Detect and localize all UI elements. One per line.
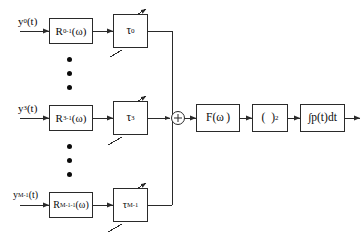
delay-block-channel-3[interactable]: τ3 bbox=[113, 101, 148, 135]
input-label-channel-m-1: yM-1(t) bbox=[13, 188, 38, 202]
channel-ellipsis-lower bbox=[66, 144, 72, 177]
square-law-block[interactable]: ( )2 bbox=[252, 104, 288, 132]
input-label-channel-0: y0(t) bbox=[18, 14, 37, 28]
integrator-block[interactable]: ∫p(t)dt bbox=[300, 104, 345, 132]
delay-block-channel-m-1[interactable]: τM-1 bbox=[113, 188, 148, 222]
whitening-filter-block-channel-m-1[interactable]: RM-1-1(ω) bbox=[49, 192, 93, 218]
input-label-channel-3: y3(t) bbox=[18, 101, 37, 115]
variable-delay-tick-0-bottom bbox=[110, 50, 122, 57]
variable-delay-tick-3-bottom bbox=[108, 137, 122, 145]
whitening-filter-block-channel-3[interactable]: R3-1(ω) bbox=[49, 105, 93, 131]
summing-junction[interactable] bbox=[171, 111, 185, 125]
variable-delay-tick-m-1-bottom bbox=[108, 224, 122, 232]
delay-block-channel-0[interactable]: τ0 bbox=[113, 14, 148, 48]
plus-icon bbox=[172, 112, 184, 124]
channel-ellipsis-upper bbox=[66, 57, 72, 90]
frequency-filter-block[interactable]: F(ω ) bbox=[196, 104, 240, 132]
whitening-filter-block-channel-0[interactable]: R0-1(ω) bbox=[49, 18, 93, 44]
block-diagram-canvas: y0(t) R0-1(ω) τ0 y3(t) R3-1(ω) τ3 yM-1(t… bbox=[0, 0, 362, 235]
